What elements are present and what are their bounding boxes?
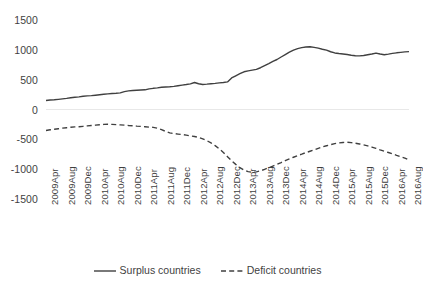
x-axis-tick-label: 2014Apr bbox=[298, 168, 307, 205]
y-axis-tick-label: -1000 bbox=[0, 164, 38, 174]
y-axis-tick-label: 1500 bbox=[0, 15, 38, 25]
y-axis-tick-label: -1500 bbox=[0, 194, 38, 204]
x-axis-tick-label: 2013Dec bbox=[281, 166, 290, 205]
x-axis-tick-label: 2013Aug bbox=[265, 166, 274, 205]
legend-label: Deficit countries bbox=[247, 264, 322, 276]
x-axis-tick-label: 2012Aug bbox=[215, 166, 224, 205]
x-axis-tick-label: 2010Apr bbox=[100, 168, 109, 205]
legend-solid-line-icon bbox=[94, 266, 116, 275]
x-axis-tick-label: 2016Aug bbox=[413, 166, 422, 205]
legend-entry: Surplus countries bbox=[94, 264, 201, 276]
x-axis-tick-label: 2014Dec bbox=[331, 166, 340, 205]
chart-legend: Surplus countriesDeficit countries bbox=[0, 264, 415, 276]
x-axis-tick-label: 2009Aug bbox=[67, 166, 76, 205]
x-axis-tick-label: 2011Apr bbox=[149, 169, 158, 205]
legend-entry: Deficit countries bbox=[221, 264, 322, 276]
x-axis-tick-label: 2010Aug bbox=[116, 166, 125, 205]
y-axis-tick-label: -500 bbox=[0, 134, 38, 144]
x-axis-tick-label: 2009Dec bbox=[83, 166, 92, 205]
x-axis-tick-label: 2015Dec bbox=[380, 166, 389, 205]
legend-dashed-line-icon bbox=[221, 266, 243, 275]
y-axis-tick-label: 1000 bbox=[0, 45, 38, 55]
x-axis-tick-label: 2011Aug bbox=[166, 167, 175, 205]
series-line-deficit-countries bbox=[46, 124, 409, 172]
x-axis-tick-label: 2012Apr bbox=[199, 168, 208, 205]
y-axis-tick-label: 0 bbox=[0, 105, 38, 115]
x-axis-tick-label: 2015Aug bbox=[364, 166, 373, 205]
x-axis-tick-label: 2011Dec bbox=[182, 167, 191, 205]
x-axis-tick-label: 2015Apr bbox=[347, 168, 356, 205]
x-axis-tick-label: 2014Aug bbox=[314, 166, 323, 205]
x-axis-tick-label: 2009Apr bbox=[50, 168, 59, 205]
y-axis-tick-label: 500 bbox=[0, 75, 38, 85]
series-line-surplus-countries bbox=[46, 47, 409, 101]
x-axis-tick-label: 2012Dec bbox=[232, 166, 241, 205]
legend-label: Surplus countries bbox=[120, 264, 201, 276]
x-axis-tick-label: 2010Dec bbox=[133, 166, 142, 205]
x-axis-tick-label: 2016Apr bbox=[397, 168, 406, 205]
x-axis-tick-label: 2013Apr bbox=[248, 168, 257, 205]
